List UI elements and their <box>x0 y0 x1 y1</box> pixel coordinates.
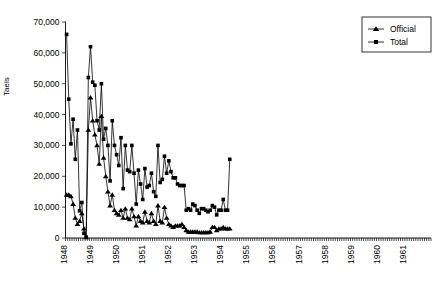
data-point-marker <box>108 179 112 183</box>
data-point-marker <box>189 208 193 212</box>
x-axis-year-label: 1955 <box>241 245 251 264</box>
data-point-marker <box>113 144 117 148</box>
data-point-marker <box>72 215 78 219</box>
data-point-marker <box>142 209 148 213</box>
data-point-marker <box>122 206 128 210</box>
data-point-marker <box>76 128 80 132</box>
data-point-marker <box>94 143 100 147</box>
x-axis-year-label: 1958 <box>320 245 330 264</box>
x-axis-year-label: 1949 <box>85 245 95 264</box>
legend-official-label: Official <box>390 24 416 34</box>
data-point-marker <box>73 158 77 162</box>
data-point-marker <box>128 170 132 174</box>
y-axis-tick-label: 20,000 <box>34 171 60 181</box>
data-point-marker <box>193 204 197 208</box>
data-point-marker <box>87 76 91 80</box>
chart-container: Taels 010,00020,00030,00040,00050,00060,… <box>0 0 448 284</box>
data-point-marker <box>80 201 84 205</box>
data-point-marker <box>107 203 113 207</box>
data-point-marker <box>156 144 160 148</box>
data-point-marker <box>65 33 69 37</box>
data-point-marker <box>82 232 86 236</box>
x-axis-year-label: 1948 <box>59 245 69 264</box>
series-line <box>67 34 230 237</box>
data-point-marker <box>90 118 96 122</box>
data-point-marker <box>133 223 139 227</box>
data-point-marker <box>95 119 99 123</box>
data-point-marker <box>141 198 145 202</box>
x-axis-year-label: 1951 <box>137 245 147 264</box>
data-point-marker <box>85 128 91 132</box>
data-point-marker <box>93 83 97 87</box>
data-point-marker <box>154 195 158 199</box>
data-point-marker <box>208 208 212 212</box>
data-point-marker <box>124 144 128 148</box>
data-point-marker <box>110 119 114 123</box>
data-point-marker <box>115 153 119 157</box>
data-point-marker <box>219 208 223 212</box>
data-point-marker <box>104 127 108 131</box>
data-point-marker <box>143 167 147 171</box>
data-point-marker <box>165 171 169 175</box>
data-point-marker <box>226 208 230 212</box>
data-point-marker <box>99 114 105 118</box>
x-axis-year-label: 1954 <box>215 245 225 264</box>
series-line <box>67 98 230 238</box>
data-point-marker <box>70 202 76 206</box>
x-axis-year-label: 1961 <box>398 245 408 264</box>
data-point-marker <box>69 142 73 146</box>
data-point-marker <box>100 82 104 86</box>
series-official <box>64 95 233 239</box>
y-axis-tick-label: 50,000 <box>34 79 60 89</box>
data-point-marker <box>139 182 143 186</box>
data-point-marker <box>96 161 102 165</box>
data-point-marker <box>67 97 71 101</box>
x-axis-year-label: 1960 <box>372 245 382 264</box>
x-axis-year-label: 1956 <box>267 245 277 264</box>
data-point-marker <box>106 144 110 148</box>
y-axis-tick-label: 0 <box>55 233 60 243</box>
data-point-marker <box>215 213 219 217</box>
data-point-marker <box>91 80 95 84</box>
y-axis-tick-label: 40,000 <box>34 110 60 120</box>
data-point-marker <box>155 203 161 207</box>
data-point-marker <box>137 168 141 172</box>
y-axis-tick-label: 30,000 <box>34 140 60 150</box>
data-point-marker <box>105 189 111 193</box>
data-point-marker <box>102 137 106 141</box>
data-point-marker <box>163 154 167 158</box>
data-point-marker <box>84 235 88 239</box>
x-axis-year-label: 1950 <box>111 245 121 264</box>
data-point-marker <box>97 128 101 132</box>
line-chart: 010,00020,00030,00040,00050,00060,00070,… <box>0 0 448 284</box>
data-point-marker <box>169 170 173 174</box>
data-point-marker <box>119 136 123 140</box>
data-point-marker <box>161 178 165 182</box>
data-point-marker <box>78 209 82 213</box>
data-point-marker <box>103 174 109 178</box>
data-point-marker <box>117 164 121 168</box>
data-point-marker <box>228 158 232 162</box>
data-point-marker <box>121 187 125 191</box>
data-point-marker <box>88 95 94 99</box>
data-point-marker <box>130 144 134 148</box>
data-point-marker <box>158 181 162 185</box>
data-point-marker <box>182 184 186 188</box>
y-axis-tick-label: 70,000 <box>34 17 60 27</box>
data-point-marker <box>174 176 178 180</box>
legend-total-label: Total <box>390 37 408 47</box>
legend-total-marker-icon <box>374 40 378 44</box>
data-point-marker <box>195 208 199 212</box>
y-axis-tick-label: 10,000 <box>34 202 60 212</box>
data-point-marker <box>167 159 171 163</box>
data-point-marker <box>149 211 155 215</box>
data-point-marker <box>92 132 98 136</box>
x-axis-year-label: 1959 <box>346 245 356 264</box>
data-point-marker <box>71 117 75 121</box>
data-point-marker <box>147 184 151 188</box>
data-point-marker <box>132 171 136 175</box>
data-point-marker <box>162 205 168 209</box>
y-axis-tick-label: 60,000 <box>34 48 60 58</box>
series-total <box>65 33 232 239</box>
data-point-marker <box>150 171 154 175</box>
